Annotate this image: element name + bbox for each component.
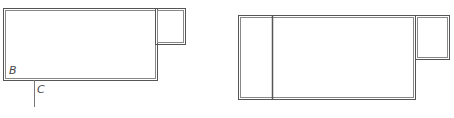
right-main-rect-inner — [241, 18, 414, 98]
right-side-box-outer — [416, 16, 450, 60]
left-main-rect-outer — [4, 9, 158, 81]
left-main-rect-inner — [6, 11, 156, 79]
right-main-rect-outer — [239, 16, 416, 100]
left-figure — [4, 9, 186, 108]
left-side-box-outer — [156, 9, 186, 45]
left-side-box-inner — [158, 11, 184, 43]
right-figure — [239, 16, 450, 100]
right-side-box-inner — [418, 18, 448, 58]
label-b: B — [9, 64, 17, 77]
diagram-canvas: B C — [0, 0, 454, 118]
label-c: C — [37, 83, 45, 96]
